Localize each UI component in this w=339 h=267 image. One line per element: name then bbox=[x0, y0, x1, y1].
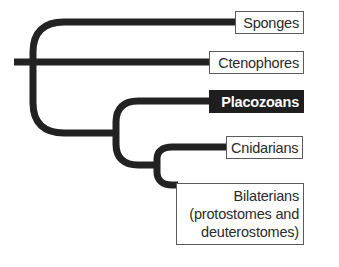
branch-placozoans bbox=[116, 101, 212, 133]
taxon-label-line-1: Bilaterians bbox=[181, 187, 299, 205]
taxon-label: Ctenophores bbox=[214, 54, 299, 72]
taxon-label-line-3: deuterostomes) bbox=[181, 223, 299, 241]
taxon-label-line-2: (protostomes and bbox=[181, 205, 299, 223]
taxon-label: Sponges bbox=[240, 14, 299, 32]
taxon-bilaterians: Bilaterians (protostomes and deuterostom… bbox=[176, 183, 304, 245]
branch-to-third-node bbox=[116, 133, 157, 165]
branch-bilaterians bbox=[157, 165, 178, 185]
branch-cnidarians bbox=[157, 147, 228, 165]
taxon-placozoans: Placozoans bbox=[209, 90, 304, 113]
branch-sponges bbox=[33, 22, 237, 62]
branch-eumetazoa bbox=[33, 62, 116, 133]
taxon-ctenophores: Ctenophores bbox=[209, 51, 304, 74]
taxon-cnidarians: Cnidarians bbox=[226, 136, 303, 159]
taxon-label: Cnidarians bbox=[231, 139, 298, 157]
taxon-label: Placozoans bbox=[214, 93, 299, 111]
taxon-sponges: Sponges bbox=[235, 11, 304, 34]
